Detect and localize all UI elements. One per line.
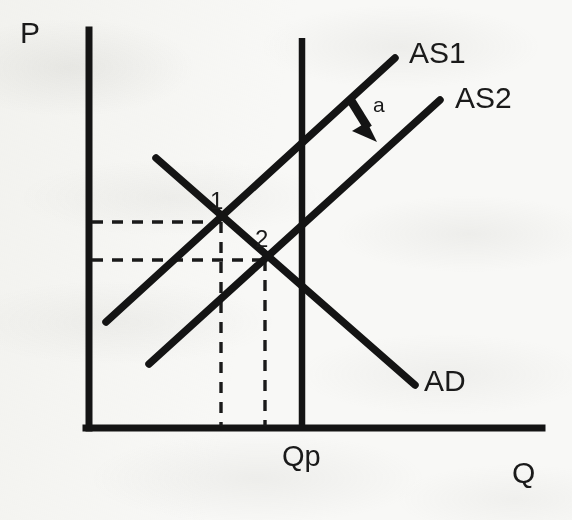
equilibrium-point-2-label: 2: [255, 227, 268, 251]
ad-curve: [156, 158, 415, 385]
ad-curve-label: AD: [424, 366, 466, 396]
x-axis-label: Q: [512, 458, 535, 488]
shift-arrow-head: [352, 122, 377, 142]
shift-arrow-label: a: [373, 94, 385, 115]
as2-curve-label: AS2: [455, 83, 512, 113]
equilibrium-point-1-label: 1: [210, 189, 223, 213]
as1-curve: [106, 58, 395, 322]
as-ad-diagram-figure: P Q AS1 AS2 AD Qp 1 2 a: [0, 0, 572, 520]
y-axis-label: P: [20, 18, 40, 48]
as2-curve: [149, 100, 440, 364]
potential-output-tick-label: Qp: [282, 442, 321, 471]
as1-curve-label: AS1: [409, 38, 466, 68]
